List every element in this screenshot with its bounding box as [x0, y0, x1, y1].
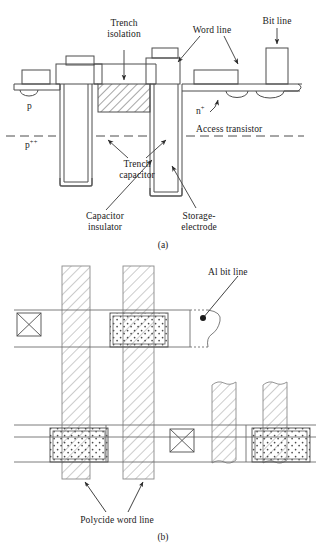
leader-storage-electrode [172, 166, 196, 208]
label-polycide-word-line: Polycide word line [80, 515, 154, 526]
caption-panel-a: (a) [158, 240, 169, 250]
trench1-top-pad [56, 64, 102, 84]
label-trench-capacitor: Trenchcapacitor [119, 159, 155, 181]
storage-node-lower-left [50, 428, 108, 462]
label-word-line: Word line [193, 25, 231, 36]
trench2-inner-liner [154, 84, 178, 192]
panel-a-cross-section [6, 28, 304, 210]
substrate-surface-left [14, 84, 60, 90]
panel-b-layout [14, 266, 316, 512]
label-trench-isolation: Trenchisolation [107, 18, 141, 40]
storage-node-upper [110, 313, 168, 347]
leader-trench-cap-left [108, 140, 128, 158]
trench2-top-pad [146, 58, 180, 84]
leader-al-bit-line [203, 276, 238, 318]
substrate-right-taper [284, 84, 301, 91]
diffusion-lobe-left [20, 90, 38, 96]
storage-node-lower-right [252, 428, 310, 462]
diffusion-lobe-mid-right [226, 91, 248, 98]
label-p-plus-plus: p++ [25, 140, 37, 151]
bit-line-pillar [266, 48, 288, 84]
figure-page: Trenchisolation Word line Bit line n+ Ac… [0, 0, 327, 551]
leader-al-bit-line-dot [200, 315, 206, 321]
label-capacitor-insulator: Capacitorinsulator [86, 211, 124, 233]
leader-trench-cap-right [146, 140, 166, 158]
caption-panel-b: (b) [157, 532, 168, 542]
contact-x-upper-left [17, 313, 41, 336]
leader-polycide-1 [85, 482, 106, 512]
trench2-cap [152, 48, 178, 58]
label-storage-electrode: Storage-electrode [181, 211, 217, 233]
label-al-bit-line: Al bit line [208, 267, 248, 278]
figure-drawing [0, 0, 327, 551]
leader-word-line-left [178, 36, 200, 62]
label-n-plus: n+ [196, 106, 205, 117]
trench1-inner-liner [64, 84, 88, 182]
bit-line-wavy-break [208, 310, 221, 347]
trench-isolation-block [98, 84, 150, 112]
leader-word-line-right [224, 36, 238, 64]
word-line-column-3 [212, 382, 236, 463]
label-access-transistor: Access transistor [196, 124, 262, 135]
diffusion-lobe-right [256, 91, 284, 98]
contact-x-lower-middle [170, 429, 194, 452]
label-p-region: p [27, 101, 32, 112]
leader-n-plus [210, 100, 218, 112]
word-line-column-2 [123, 266, 154, 479]
word-line-gate-right [194, 70, 238, 84]
label-bit-line: Bit line [262, 16, 291, 27]
gate-stack-left-partial [22, 70, 50, 84]
leader-polycide-2 [128, 482, 143, 512]
trench1-outer-wall [60, 84, 92, 186]
